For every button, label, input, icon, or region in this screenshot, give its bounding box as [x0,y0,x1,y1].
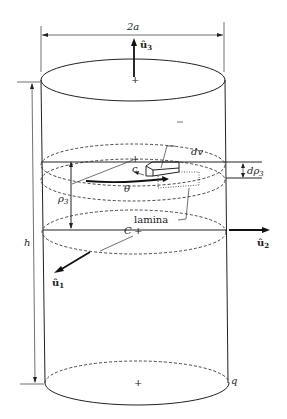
volume-element [146,162,199,188]
height-dimension [17,82,44,384]
height-label: h [24,237,30,248]
u1-arrow [60,252,90,270]
diameter-label: 2a [126,21,139,32]
right-wall [225,80,228,383]
top-center-mark: + [131,74,139,85]
cylinder-center-mark: + [134,225,142,236]
cylinder-diagram: 2a + û3 h dρ3 ρ3 + c θ [0,0,287,419]
u3-label: û3 [140,39,152,52]
cylinder-center-label: C [124,225,132,236]
lamina-label: lamina [134,214,168,225]
theta-label: θ [124,183,130,194]
theta-arc [86,179,165,182]
rho3-label: ρ3 [57,193,69,206]
thickness-label: dρ3 [247,165,264,178]
u1-label: û1 [52,277,64,290]
u2-label: û2 [257,237,269,250]
point-q-label: q [231,375,237,386]
bottom-center-mark: + [134,377,142,388]
dv-label: dv [191,146,203,157]
